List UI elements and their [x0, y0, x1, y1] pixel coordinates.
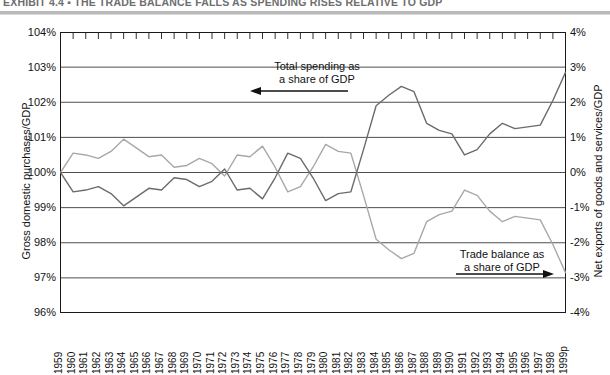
left-ytick-101: 101%	[22, 132, 56, 143]
callout-spending-line1: Total spending as	[252, 60, 382, 73]
right-ytick-neg1: -1%	[570, 202, 604, 213]
callout-trade-balance: Trade balance as a share of GDP	[437, 248, 567, 274]
x-axis-tick-label: 1966	[142, 352, 152, 374]
x-axis-tick-label: 1981	[332, 352, 342, 374]
x-axis-tick-label: 1990	[445, 352, 455, 374]
x-axis-tick-label: 1960	[67, 352, 77, 374]
right-ytick-neg2: -2%	[570, 237, 604, 248]
left-ytick-96: 96%	[22, 307, 56, 318]
x-axis-tick-label: 1984	[370, 352, 380, 374]
x-axis-tick-label: 1986	[395, 352, 405, 374]
left-ytick-98: 98%	[22, 237, 56, 248]
x-axis-tick-label: 1996	[521, 352, 531, 374]
x-axis-tick-label: 1978	[294, 352, 304, 374]
x-axis-tick-label: 1994	[496, 352, 506, 374]
x-axis-tick-label: 1973	[231, 352, 241, 374]
left-ytick-97: 97%	[22, 272, 56, 283]
x-axis-tick-label: 1977	[281, 352, 291, 374]
x-axis-tick-label: 1979	[307, 352, 317, 374]
x-axis-tick-label: 1974	[243, 352, 253, 374]
callout-spending-line2: a share of GDP	[252, 73, 382, 86]
left-ytick-99: 99%	[22, 202, 56, 213]
x-axis-tick-label: 1995	[509, 352, 519, 374]
right-ytick-0: 0%	[570, 167, 604, 178]
x-axis-tick-label: 1999p	[559, 346, 569, 374]
left-ytick-100: 100%	[22, 167, 56, 178]
x-axis-tick-label: 1993	[483, 352, 493, 374]
x-axis-tick-label: 1963	[105, 352, 115, 374]
x-axis-tick-label: 1965	[130, 352, 140, 374]
total-spending-line	[61, 72, 566, 205]
callout-total-spending: Total spending as a share of GDP	[252, 60, 382, 86]
right-ytick-3: 3%	[570, 62, 604, 73]
x-axis-tick-label: 1982	[344, 352, 354, 374]
x-axis-tick-label: 1962	[92, 352, 102, 374]
x-axis-tick-label: 1969	[180, 352, 190, 374]
x-axis-tick-label: 1985	[382, 352, 392, 374]
x-axis-tick-label: 1970	[193, 352, 203, 374]
x-axis-tick-label: 1964	[117, 352, 127, 374]
x-axis-tick-label: 1991	[458, 352, 468, 374]
gridlines	[60, 67, 566, 278]
title-rule-secondary	[0, 14, 610, 15]
x-axis-tick-label: 1989	[433, 352, 443, 374]
x-axis-tick-label: 1968	[168, 352, 178, 374]
x-axis-tick-label: 1998	[546, 352, 556, 374]
left-ytick-104: 104%	[22, 27, 56, 38]
exhibit-title: EXHIBIT 4.4 ▪ THE TRADE BALANCE FALLS AS…	[3, 0, 443, 8]
x-axis-tick-label: 1992	[471, 352, 481, 374]
right-ytick-2: 2%	[570, 97, 604, 108]
right-ytick-4: 4%	[570, 27, 604, 38]
x-axis-tick-label: 1980	[319, 352, 329, 374]
x-axis-tick-label: 1971	[206, 352, 216, 374]
x-axis-tick-label: 1983	[357, 352, 367, 374]
x-axis-tick-label: 1961	[79, 352, 89, 374]
spending-arrow	[250, 87, 348, 95]
exhibit-figure: EXHIBIT 4.4 ▪ THE TRADE BALANCE FALLS AS…	[0, 0, 610, 375]
left-ytick-103: 103%	[22, 62, 56, 73]
left-ytick-102: 102%	[22, 97, 56, 108]
x-axis-tick-label: 1972	[218, 352, 228, 374]
right-ytick-neg3: -3%	[570, 272, 604, 283]
x-axis-tick-label: 1976	[269, 352, 279, 374]
right-ytick-neg4: -4%	[570, 307, 604, 318]
right-ytick-1: 1%	[570, 132, 604, 143]
x-axis-tick-label: 1987	[408, 352, 418, 374]
callout-trade-line1: Trade balance as	[437, 248, 567, 261]
x-axis-tick-label: 1975	[256, 352, 266, 374]
x-axis-tick-label: 1997	[534, 352, 544, 374]
x-axis-tick-label: 1959	[54, 352, 64, 374]
x-axis-tick-label: 1967	[155, 352, 165, 374]
x-axis-tick-label: 1988	[420, 352, 430, 374]
callout-trade-line2: a share of GDP	[437, 261, 567, 274]
x-axis-labels: 1959196019611962196319641965196619671968…	[60, 316, 566, 374]
